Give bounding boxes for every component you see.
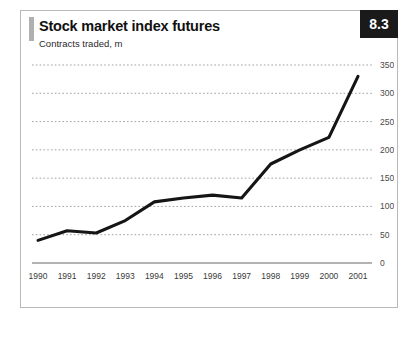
page-title: Stock market index futures [39,18,220,34]
y-tick-label: 50 [380,230,390,240]
x-tick-label: 1990 [29,271,48,281]
y-axis-tick-labels: 050100150200250300350 [380,60,394,268]
y-tick-label: 100 [380,201,394,211]
data-series-line [38,76,358,240]
y-tick-label: 300 [380,88,394,98]
y-tick-label: 200 [380,145,394,155]
plot-area: 050100150200250300350 199019911992199319… [26,47,392,302]
x-tick-label: 2001 [349,271,368,281]
x-tick-label: 1994 [145,271,164,281]
figure-number-badge: 8.3 [360,10,398,38]
x-tick-label: 1992 [87,271,106,281]
chart-card: Stock market index futures Contracts tra… [20,10,398,308]
gridlines-group [32,65,372,235]
x-tick-label: 1999 [290,271,309,281]
y-tick-label: 0 [380,258,385,268]
y-tick-label: 250 [380,117,394,127]
x-tick-label: 1998 [261,271,280,281]
x-tick-label: 1996 [203,271,222,281]
x-axis-tick-labels: 1990199119921993199419951996199719981999… [29,271,368,281]
x-tick-label: 1997 [232,271,251,281]
y-tick-label: 350 [380,60,394,70]
x-tick-label: 1995 [174,271,193,281]
line-chart-svg: 050100150200250300350 199019911992199319… [26,47,394,303]
x-tick-label: 1991 [58,271,77,281]
y-tick-label: 150 [380,173,394,183]
x-tick-label: 1993 [116,271,135,281]
x-tick-label: 2000 [319,271,338,281]
title-accent-bar [29,17,34,41]
